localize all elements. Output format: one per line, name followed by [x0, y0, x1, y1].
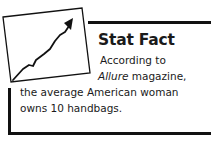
callout-title: Stat Fact [98, 31, 175, 49]
callout-text-line: According to [100, 54, 166, 66]
callout-text-line: the average American woman [20, 86, 179, 98]
frame-left-border [8, 88, 11, 134]
frame-top-border [88, 21, 211, 24]
frame-bottom-border [8, 132, 211, 135]
callout-text-fragment: magazine, [128, 70, 186, 82]
callout-text-line: Allure magazine, [98, 70, 186, 82]
rising-trend-chart-icon [0, 0, 95, 90]
publication-name: Allure [98, 70, 128, 82]
callout-text-line: owns 10 handbags. [20, 102, 122, 114]
